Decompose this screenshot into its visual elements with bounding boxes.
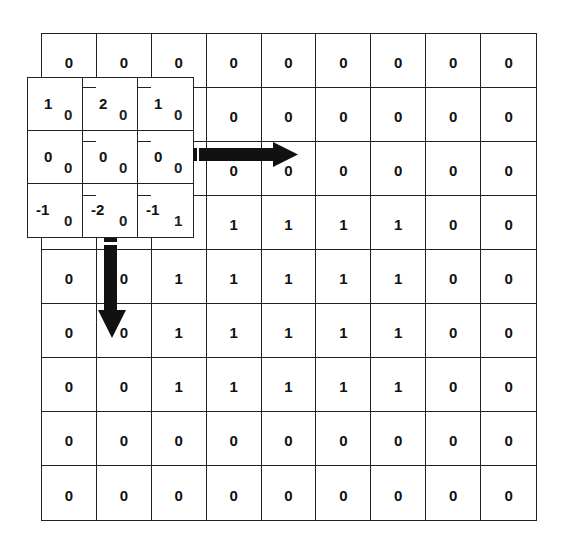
- grid-cell-1-8: 0: [481, 88, 536, 142]
- grid-cell-3-3: 1: [207, 196, 262, 250]
- kernel-underlying-value: 0: [64, 106, 72, 123]
- grid-cell-3-8: 0: [481, 196, 536, 250]
- grid-cell-8-4: 0: [262, 466, 317, 520]
- grid-cell-3-5: 1: [316, 196, 371, 250]
- grid-cell-3-4: 1: [262, 196, 317, 250]
- grid-cell-8-3: 0: [207, 466, 262, 520]
- kernel-cell-0-1: 2 0: [83, 78, 138, 131]
- grid-cell-8-0: 0: [42, 466, 97, 520]
- grid-cell-6-5: 1: [316, 358, 371, 412]
- kernel-cell-1-0: 0 0: [28, 131, 83, 184]
- kernel-underlying-value: 1: [174, 212, 182, 229]
- grid-cell-4-6: 1: [371, 250, 426, 304]
- grid-cell-4-3: 1: [207, 250, 262, 304]
- grid-cell-4-5: 1: [316, 250, 371, 304]
- grid-cell-0-8: 0: [481, 34, 536, 88]
- kernel-cell-2-0: -1 0: [28, 184, 83, 237]
- grid-cell-8-1: 0: [97, 466, 152, 520]
- kernel-cell-0-2: 1 0: [138, 78, 193, 131]
- kernel-underlying-value: 0: [64, 212, 72, 229]
- kernel-cell-1-1: 0 0: [83, 131, 138, 184]
- grid-cell-3-7: 0: [426, 196, 481, 250]
- kernel-underlying-value: 0: [119, 212, 127, 229]
- kernel-underlying-value: 0: [64, 159, 72, 176]
- convolution-kernel: 1 0 2 0 1 0 0 0 0 0 0 0 -1 0 -2 0 -1 1: [27, 77, 194, 238]
- grid-cell-7-3: 0: [207, 412, 262, 466]
- grid-cell-4-2: 1: [152, 250, 207, 304]
- grid-cell-8-7: 0: [426, 466, 481, 520]
- grid-cell-2-5: 0: [316, 142, 371, 196]
- grid-cell-6-1: 0: [97, 358, 152, 412]
- grid-cell-5-6: 1: [371, 304, 426, 358]
- grid-cell-7-1: 0: [97, 412, 152, 466]
- grid-cell-5-0: 0: [42, 304, 97, 358]
- grid-cell-5-5: 1: [316, 304, 371, 358]
- grid-cell-6-0: 0: [42, 358, 97, 412]
- kernel-underlying-value: 0: [174, 106, 182, 123]
- grid-cell-7-2: 0: [152, 412, 207, 466]
- grid-cell-6-4: 1: [262, 358, 317, 412]
- grid-cell-5-3: 1: [207, 304, 262, 358]
- grid-cell-1-4: 0: [262, 88, 317, 142]
- kernel-underlying-value: 0: [119, 106, 127, 123]
- grid-cell-7-4: 0: [262, 412, 317, 466]
- grid-cell-7-8: 0: [481, 412, 536, 466]
- grid-cell-0-4: 0: [262, 34, 317, 88]
- grid-cell-6-8: 0: [481, 358, 536, 412]
- kernel-cell-0-0: 1 0: [28, 78, 83, 131]
- kernel-weight: 0: [99, 148, 107, 165]
- grid-cell-6-3: 1: [207, 358, 262, 412]
- kernel-cell-2-1: -2 0: [83, 184, 138, 237]
- grid-cell-5-8: 0: [481, 304, 536, 358]
- grid-cell-6-6: 1: [371, 358, 426, 412]
- kernel-cell-2-2: -1 1: [138, 184, 193, 237]
- grid-cell-2-6: 0: [371, 142, 426, 196]
- grid-cell-8-8: 0: [481, 466, 536, 520]
- grid-cell-0-3: 0: [207, 34, 262, 88]
- grid-cell-6-7: 0: [426, 358, 481, 412]
- kernel-weight: 0: [154, 148, 162, 165]
- grid-cell-6-2: 1: [152, 358, 207, 412]
- grid-cell-0-6: 0: [371, 34, 426, 88]
- grid-cell-7-5: 0: [316, 412, 371, 466]
- kernel-weight: 0: [44, 148, 52, 165]
- grid-cell-7-7: 0: [426, 412, 481, 466]
- kernel-cell-1-2: 0 0: [138, 131, 193, 184]
- grid-cell-5-7: 0: [426, 304, 481, 358]
- kernel-weight: 1: [154, 95, 162, 112]
- slide-down-arrow-icon: [96, 236, 128, 340]
- grid-cell-8-2: 0: [152, 466, 207, 520]
- grid-cell-8-5: 0: [316, 466, 371, 520]
- kernel-weight: 2: [99, 95, 107, 112]
- grid-cell-1-7: 0: [426, 88, 481, 142]
- grid-cell-1-5: 0: [316, 88, 371, 142]
- grid-cell-8-6: 0: [371, 466, 426, 520]
- grid-cell-0-7: 0: [426, 34, 481, 88]
- grid-cell-7-0: 0: [42, 412, 97, 466]
- grid-cell-5-4: 1: [262, 304, 317, 358]
- grid-cell-1-6: 0: [371, 88, 426, 142]
- grid-cell-1-3: 0: [207, 88, 262, 142]
- grid-cell-4-7: 0: [426, 250, 481, 304]
- grid-cell-5-2: 1: [152, 304, 207, 358]
- kernel-weight: -1: [146, 201, 159, 218]
- grid-cell-4-0: 0: [42, 250, 97, 304]
- kernel-weight: -1: [36, 201, 49, 218]
- grid-cell-4-8: 0: [481, 250, 536, 304]
- kernel-underlying-value: 0: [174, 159, 182, 176]
- kernel-weight: 1: [44, 95, 52, 112]
- slide-right-arrow-icon: [192, 140, 300, 170]
- grid-cell-7-6: 0: [371, 412, 426, 466]
- grid-cell-2-7: 0: [426, 142, 481, 196]
- grid-cell-2-8: 0: [481, 142, 536, 196]
- kernel-underlying-value: 0: [119, 159, 127, 176]
- grid-cell-4-4: 1: [262, 250, 317, 304]
- grid-cell-0-5: 0: [316, 34, 371, 88]
- kernel-weight: -2: [91, 201, 104, 218]
- grid-cell-3-6: 1: [371, 196, 426, 250]
